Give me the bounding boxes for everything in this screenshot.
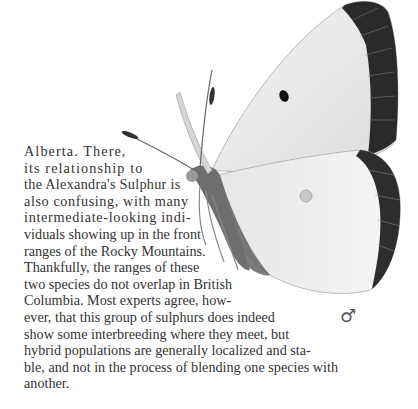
text-line: its relationship to <box>24 160 338 177</box>
text-line: the Alexandra's Sulphur is <box>24 176 338 193</box>
text-line: viduals showing up in the front <box>24 226 338 243</box>
text-line: Alberta. There, <box>24 143 338 160</box>
text-line: another. <box>24 375 338 392</box>
text-line: ble, and not in the process of blending … <box>24 359 338 376</box>
text-line: hybrid populations are generally localiz… <box>24 342 338 359</box>
body-paragraph: Alberta. There, its relationship to the … <box>24 143 338 392</box>
text-line: show some interbreeding where they meet,… <box>24 326 338 343</box>
text-line: Thankfully, the ranges of these <box>24 259 338 276</box>
text-line: intermediate-looking indi- <box>24 209 338 226</box>
book-page: Alberta. There, its relationship to the … <box>0 0 418 409</box>
text-line: ever, that this group of sulphurs does i… <box>24 309 338 326</box>
male-symbol-icon: ♂ <box>340 305 356 326</box>
text-line: Columbia. Most experts agree, how- <box>24 292 338 309</box>
text-line: also confusing, with many <box>24 193 338 210</box>
text-line: ranges of the Rocky Mountains. <box>24 243 338 260</box>
text-line: two species do not overlap in British <box>24 276 338 293</box>
